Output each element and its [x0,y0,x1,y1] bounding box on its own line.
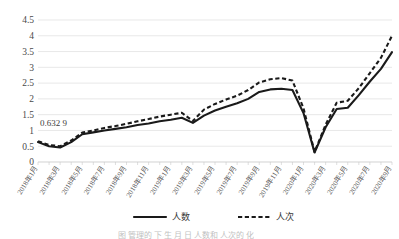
x-axis-tick-label: 2018年9月 [104,164,129,196]
x-axis-tick-label: 2020年1月 [281,164,306,196]
y-axis-tick-label: 1 [29,126,34,136]
x-axis-tick-label: 2019年1月 [148,164,173,196]
x-axis-tick-label: 2018年5月 [59,164,84,196]
x-axis-tick-labels: 2018年1月2018年3月2018年5月2018年7月2018年9月2018年… [15,164,394,199]
y-axis-tick-label: 0.5 [22,142,34,152]
x-axis-tick-label: 2018年1月 [15,164,40,196]
line-chart: 00.511.522.533.544.5 2018年1月2018年3月2018年… [0,0,399,239]
legend-label[interactable]: 人次 [276,211,294,222]
x-axis-tick-label: 2019年3月 [170,164,195,196]
x-axis-tick-label: 2020年7月 [347,164,372,196]
chart-canvas: 00.511.522.533.544.5 2018年1月2018年3月2018年… [0,0,399,232]
y-axis-tick-label: 2.5 [22,78,34,88]
x-axis-tick-label: 2019年11月 [257,164,283,199]
x-axis-tick-label: 2018年11月 [124,164,150,199]
y-axis-tick-label: 2 [29,94,34,104]
legend-label[interactable]: 人数 [172,211,190,222]
y-axis-tick-label: 4.5 [22,15,34,25]
y-axis-tick-label: 3 [29,63,34,73]
series-line-renci [38,36,392,152]
x-axis-tick-label: 2018年3月 [37,164,62,196]
x-axis-tickmarks [38,162,392,165]
x-axis-tick-label: 2020年5月 [325,164,350,196]
y-axis-tick-labels: 00.511.522.533.544.5 [22,15,34,167]
x-axis-tick-label: 2019年5月 [192,164,217,196]
x-axis-tick-label: 2018年7月 [81,164,106,196]
figure-caption-text: 图 管理的 下 生 月 日 人数和 人次的 化 [0,231,399,239]
y-axis-tick-label: 1.5 [22,110,34,120]
data-label: 0.632 9 [40,118,68,128]
gridlines [38,20,392,162]
x-axis-tick-label: 2020年3月 [303,164,328,196]
x-axis-tick-label: 2019年9月 [236,164,261,196]
x-axis-tick-label: 2020年9月 [369,164,394,196]
y-axis-tick-label: 3.5 [22,47,34,57]
y-axis-tick-label: 4 [29,31,34,41]
series-lines [38,36,392,153]
x-axis-tick-label: 2019年7月 [214,164,239,196]
chart-legend: 人数人次 [134,211,294,222]
figure-caption: 图 管理的 下 生 月 日 人数和 人次的 化 [0,231,399,239]
